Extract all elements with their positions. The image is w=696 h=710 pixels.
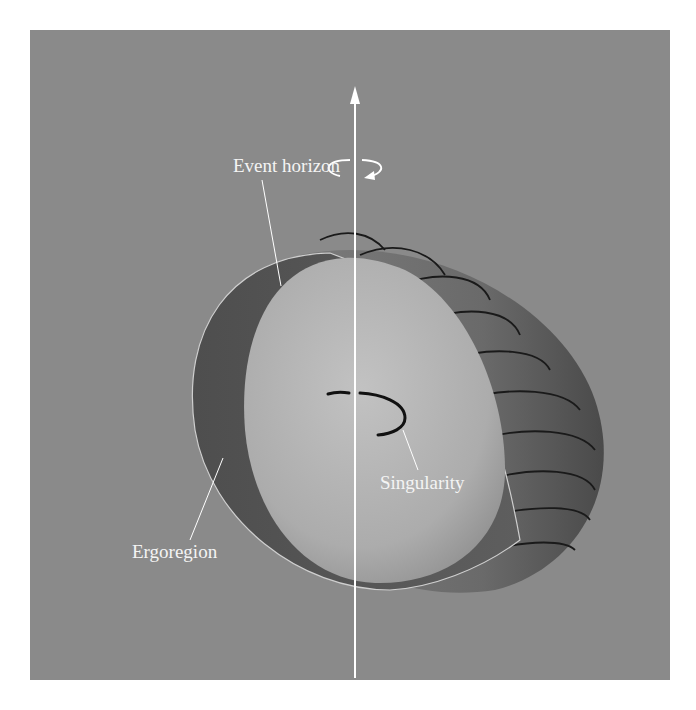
singularity-label: Singularity (380, 472, 464, 494)
ergoregion-label: Ergoregion (132, 541, 217, 563)
event-horizon-label: Event horizon (233, 155, 340, 177)
kerr-black-hole-diagram (0, 0, 696, 710)
arrow-up-icon (350, 86, 360, 104)
